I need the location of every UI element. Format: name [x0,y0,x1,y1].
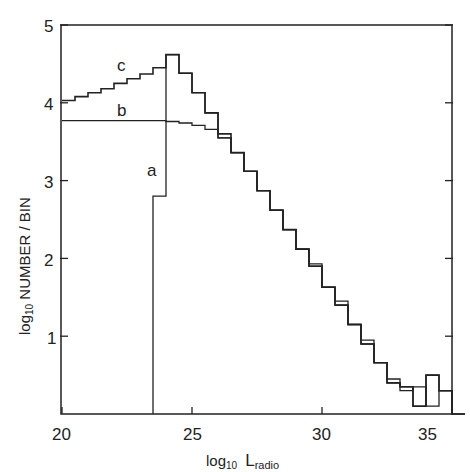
series-b [62,121,465,414]
curve-label-b: b [117,101,126,120]
curve-label-a: a [147,161,157,180]
x-tick-25: 25 [183,425,202,444]
series-a [153,55,465,414]
y-tick-2: 2 [44,251,53,270]
x-axis-label: log10Lradio [206,451,279,471]
histogram-chart: c b a 20 25 30 35 5 4 3 2 1 log10Lradio … [0,0,470,472]
y-tick-1: 1 [47,329,56,348]
y-tick-4: 4 [44,95,53,114]
y-tick-3: 3 [44,173,53,192]
x-tick-30: 30 [312,425,331,444]
y-axis-label: log10 NUMBER / BIN [16,197,35,335]
curve-label-c: c [117,56,126,75]
y-tick-5: 5 [44,17,53,36]
x-tick-20: 20 [52,425,71,444]
x-tick-35: 35 [418,425,437,444]
